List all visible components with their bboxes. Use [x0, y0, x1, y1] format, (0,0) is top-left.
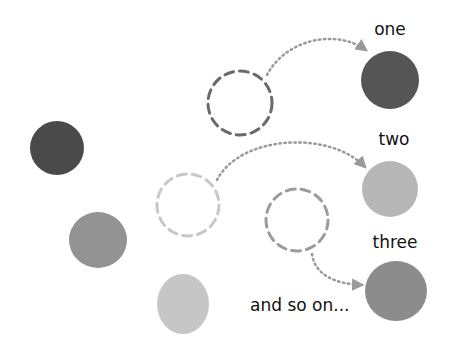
placeholder-circle-one	[208, 71, 272, 135]
label-and-so-on: and so on...	[250, 295, 349, 315]
sequence-diagram: one two three and so on...	[0, 0, 450, 345]
arrow-to-two	[217, 142, 365, 180]
arrow-to-three	[312, 254, 362, 285]
source-circle-light	[157, 274, 209, 334]
placeholder-circle-two	[157, 174, 219, 236]
source-circle-medium	[69, 212, 127, 268]
arrow-to-one	[267, 39, 366, 75]
source-circle-dark	[30, 121, 84, 175]
label-three: three	[373, 232, 418, 252]
target-circle-two	[362, 161, 418, 217]
target-circle-three	[365, 261, 427, 321]
placeholder-circle-three	[266, 189, 328, 251]
target-circle-one	[361, 51, 419, 109]
label-two: two	[379, 129, 410, 149]
label-one: one	[374, 19, 406, 39]
